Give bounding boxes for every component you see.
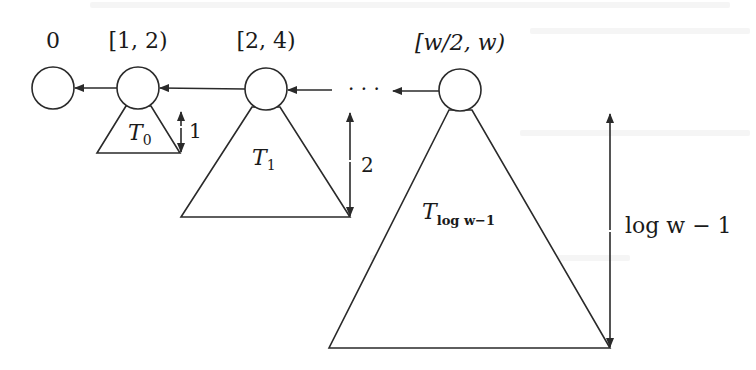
node-1-2	[117, 67, 159, 109]
node-2-4	[245, 68, 287, 110]
height-label-Tlog: log w − 1	[625, 213, 732, 238]
node-label-1-2: [1, 2)	[108, 28, 167, 53]
node-0	[32, 67, 74, 109]
node-label-2-4: [2, 4)	[236, 28, 295, 53]
height-arrow-T1: 2	[350, 113, 374, 216]
node-w2-w	[439, 69, 481, 111]
ellipsis: · · ·	[348, 77, 380, 101]
binary-tree-list-diagram: T0 T1 Tlog w−1 · · · 0 [1, 2) [2, 4) [w/…	[0, 0, 756, 370]
tree-T0: T0	[97, 67, 180, 153]
height-arrow-Tlog: log w − 1	[610, 114, 732, 347]
node-label-0: 0	[46, 28, 60, 53]
node-label-w2-w: [w/2, w)	[415, 30, 505, 55]
height-arrow-T0: 1	[181, 112, 202, 152]
height-label-T1: 2	[361, 153, 374, 177]
height-label-T0: 1	[189, 119, 202, 143]
edge-arrow-n2-n1	[160, 88, 245, 89]
tree-Tlog: Tlog w−1	[329, 69, 610, 348]
